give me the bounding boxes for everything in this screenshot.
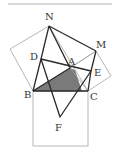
- shaded-region: [33, 68, 82, 91]
- geometry-figure: N M D A E B C F: [0, 0, 120, 152]
- label-n: N: [45, 11, 54, 22]
- label-c: C: [90, 91, 98, 102]
- square-on-bc: [33, 91, 88, 146]
- line-n-m: [49, 26, 96, 51]
- label-b: B: [24, 89, 31, 100]
- label-f: F: [55, 122, 62, 133]
- label-e: E: [94, 67, 101, 78]
- label-a: A: [67, 56, 76, 67]
- label-m: M: [96, 39, 106, 50]
- label-d: D: [30, 51, 38, 62]
